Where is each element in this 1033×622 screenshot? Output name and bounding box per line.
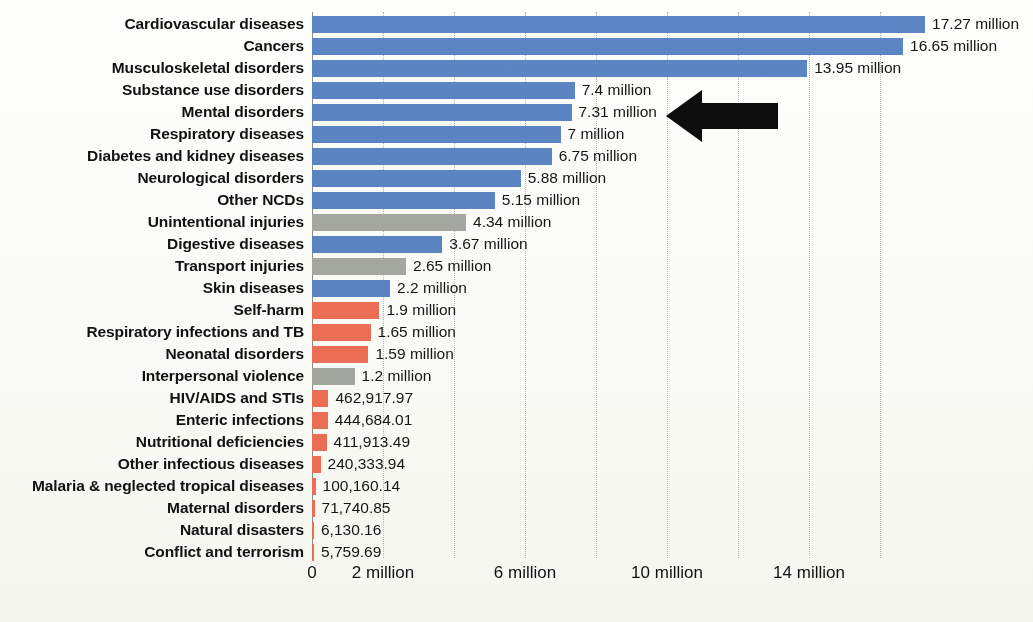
bar-value-label: 462,917.97	[335, 388, 413, 410]
bar-row: Skin diseases2.2 million	[0, 278, 1033, 300]
bar-row: Substance use disorders7.4 million	[0, 80, 1033, 102]
bar	[312, 302, 379, 319]
category-label: Cancers	[244, 36, 304, 58]
bar-row: Interpersonal violence1.2 million	[0, 366, 1033, 388]
bar-value-label: 7.31 million	[579, 102, 657, 124]
bar	[312, 346, 368, 363]
bar	[312, 280, 390, 297]
bar-row: Malaria & neglected tropical diseases100…	[0, 476, 1033, 498]
bar-value-label: 100,160.14	[323, 476, 401, 498]
bar	[312, 60, 807, 77]
bar-value-label: 7.4 million	[582, 80, 652, 102]
bar	[312, 478, 316, 495]
x-tick-label: 14 million	[773, 563, 845, 583]
category-label: Other infectious diseases	[118, 454, 304, 476]
bar	[312, 126, 561, 143]
bar-value-label: 5,759.69	[321, 542, 381, 564]
bar-value-label: 13.95 million	[814, 58, 901, 80]
bar-value-label: 17.27 million	[932, 14, 1019, 36]
bar-row: Transport injuries2.65 million	[0, 256, 1033, 278]
bar-value-label: 2.65 million	[413, 256, 491, 278]
bar	[312, 148, 552, 165]
category-label: Other NCDs	[217, 190, 304, 212]
category-label: Interpersonal violence	[142, 366, 304, 388]
bar	[312, 38, 903, 55]
x-tick-label: 0	[307, 563, 316, 583]
bar	[312, 412, 328, 429]
category-label: Enteric infections	[176, 410, 304, 432]
bar-row: Neonatal disorders1.59 million	[0, 344, 1033, 366]
category-label: Respiratory infections and TB	[86, 322, 304, 344]
bar-row: Natural disasters6,130.16	[0, 520, 1033, 542]
bar	[312, 82, 575, 99]
category-label: Maternal disorders	[167, 498, 304, 520]
bar	[312, 16, 925, 33]
bar-value-label: 444,684.01	[335, 410, 413, 432]
bar	[312, 522, 314, 539]
x-tick-label: 2 million	[352, 563, 414, 583]
bar-value-label: 5.15 million	[502, 190, 580, 212]
bar-value-label: 240,333.94	[328, 454, 406, 476]
category-label: Diabetes and kidney diseases	[87, 146, 304, 168]
bar-value-label: 1.2 million	[362, 366, 432, 388]
bar-row: Digestive diseases3.67 million	[0, 234, 1033, 256]
category-label: Malaria & neglected tropical diseases	[32, 476, 304, 498]
x-tick-label: 6 million	[494, 563, 556, 583]
bar	[312, 170, 521, 187]
bar-row: Enteric infections444,684.01	[0, 410, 1033, 432]
bar-row: HIV/AIDS and STIs462,917.97	[0, 388, 1033, 410]
bar-chart-plot: Cardiovascular diseases17.27 millionCanc…	[0, 0, 1033, 622]
category-label: Self-harm	[233, 300, 304, 322]
bar	[312, 258, 406, 275]
category-label: Unintentional injuries	[148, 212, 304, 234]
bar	[312, 324, 371, 341]
bar-row: Maternal disorders71,740.85	[0, 498, 1033, 520]
category-label: Neurological disorders	[137, 168, 304, 190]
category-label: Nutritional deficiencies	[136, 432, 304, 454]
bar-value-label: 71,740.85	[322, 498, 391, 520]
category-label: Musculoskeletal disorders	[112, 58, 304, 80]
bar-row: Neurological disorders5.88 million	[0, 168, 1033, 190]
bar-row: Cardiovascular diseases17.27 million	[0, 14, 1033, 36]
bar-value-label: 1.9 million	[386, 300, 456, 322]
x-tick-label: 10 million	[631, 563, 703, 583]
category-label: Cardiovascular diseases	[125, 14, 305, 36]
bar-value-label: 411,913.49	[334, 432, 410, 454]
category-label: Skin diseases	[203, 278, 304, 300]
bar	[312, 236, 442, 253]
bar	[312, 500, 315, 517]
bar-row: Conflict and terrorism5,759.69	[0, 542, 1033, 564]
category-label: Natural disasters	[180, 520, 304, 542]
bar-row: Respiratory diseases7 million	[0, 124, 1033, 146]
black-left-arrow-icon	[666, 90, 778, 142]
bar	[312, 214, 466, 231]
category-label: Mental disorders	[182, 102, 304, 124]
bar-value-label: 6.75 million	[559, 146, 637, 168]
bar-value-label: 4.34 million	[473, 212, 551, 234]
bar	[312, 456, 321, 473]
bar-row: Other NCDs5.15 million	[0, 190, 1033, 212]
bar-row: Cancers16.65 million	[0, 36, 1033, 58]
bar-value-label: 7 million	[568, 124, 625, 146]
bar-row: Diabetes and kidney diseases6.75 million	[0, 146, 1033, 168]
bar	[312, 544, 314, 561]
bar-value-label: 1.59 million	[375, 344, 453, 366]
bar-value-label: 16.65 million	[910, 36, 997, 58]
bar	[312, 390, 328, 407]
bar-row: Mental disorders7.31 million	[0, 102, 1033, 124]
bar-row: Nutritional deficiencies411,913.49	[0, 432, 1033, 454]
category-label: HIV/AIDS and STIs	[170, 388, 304, 410]
category-label: Digestive diseases	[167, 234, 304, 256]
category-label: Respiratory diseases	[150, 124, 304, 146]
bar-value-label: 3.67 million	[449, 234, 527, 256]
category-label: Conflict and terrorism	[144, 542, 304, 564]
bar	[312, 434, 327, 451]
bar-value-label: 6,130.16	[321, 520, 381, 542]
bar	[312, 104, 572, 121]
bar-row: Unintentional injuries4.34 million	[0, 212, 1033, 234]
category-label: Transport injuries	[175, 256, 304, 278]
category-label: Substance use disorders	[122, 80, 304, 102]
chart-page: Cardiovascular diseases17.27 millionCanc…	[0, 0, 1033, 622]
bar-row: Musculoskeletal disorders13.95 million	[0, 58, 1033, 80]
bar-value-label: 5.88 million	[528, 168, 606, 190]
